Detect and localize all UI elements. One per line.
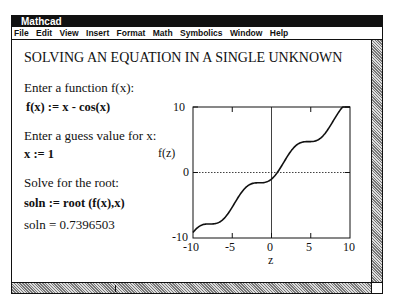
menu-format[interactable]: Format [117,28,146,38]
y-tick-0: 0 [183,165,189,180]
menu-insert[interactable]: Insert [86,28,109,38]
x-tick-5: 5 [306,240,312,255]
mathcad-window: Mathcad File Edit View Insert Format Mat… [11,15,383,294]
menu-file[interactable]: File [14,28,29,38]
menu-view[interactable]: View [59,28,78,38]
window-title: Mathcad [21,16,62,27]
y-axis-label: f(z) [158,146,175,161]
menu-math[interactable]: Math [153,28,173,38]
horizontal-scroll-thumb[interactable] [115,285,116,292]
size-grip[interactable] [371,282,382,293]
menu-help[interactable]: Help [270,28,288,38]
x-tick-10: 10 [343,240,355,255]
menu-window[interactable]: Window [230,28,263,38]
menu-bar: File Edit View Insert Format Math Symbol… [12,27,382,40]
title-bar[interactable]: Mathcad [12,16,382,27]
menu-edit[interactable]: Edit [36,28,52,38]
x-tick-neg5: -5 [225,240,235,255]
vertical-scrollbar[interactable] [371,40,382,284]
x-axis-label: z [268,253,273,268]
worksheet[interactable]: SOLVING AN EQUATION IN A SINGLE UNKNOWN … [12,40,372,284]
x-tick-neg10: -10 [183,240,199,255]
horizontal-scrollbar[interactable] [12,282,372,293]
menu-symbolics[interactable]: Symbolics [180,28,223,38]
plot[interactable]: 10 0 -10 f(z) -10 -5 0 5 10 z [12,40,372,284]
y-tick-10: 10 [173,100,185,115]
